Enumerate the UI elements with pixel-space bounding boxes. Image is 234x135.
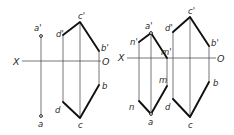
right-label-c: c <box>188 120 193 130</box>
right-small-top-edge <box>139 86 167 114</box>
right-axis-o-label: O <box>217 53 225 64</box>
right-figure: X O a' n' m' m n a d' c' b' d c b <box>117 6 225 130</box>
right-label-m: m <box>159 75 167 85</box>
left-label-a-prime: a' <box>34 23 42 33</box>
left-label-d: d <box>55 105 61 115</box>
right-label-b-prime: b' <box>211 38 219 48</box>
projection-diagram: X O a' a d' c' b' d c b X O <box>0 0 234 135</box>
right-point-a <box>150 113 153 116</box>
left-label-c: c <box>78 120 83 130</box>
right-label-c-prime: c' <box>188 6 195 16</box>
left-label-c-prime: c' <box>78 11 85 21</box>
right-label-n: n <box>129 102 134 112</box>
right-label-m-prime: m' <box>161 47 172 57</box>
right-axis-x-label: X <box>117 52 125 63</box>
right-label-a: a <box>148 117 153 127</box>
right-label-b: b <box>213 78 218 88</box>
left-label-d-prime: d' <box>56 29 64 39</box>
right-label-a-prime: a' <box>145 21 153 31</box>
right-label-d: d <box>165 102 171 112</box>
left-axis-x-label: X <box>12 56 20 67</box>
left-figure: X O a' a d' c' b' d c b <box>12 11 110 130</box>
left-label-b: b <box>102 81 107 91</box>
right-label-d-prime: d' <box>165 23 173 33</box>
right-point-a-prime <box>150 32 153 35</box>
left-top-view-edge <box>63 85 99 118</box>
right-label-n-prime: n' <box>130 37 138 47</box>
left-label-a: a <box>38 119 43 129</box>
left-label-b-prime: b' <box>101 43 109 53</box>
right-large-top-edge <box>173 82 209 117</box>
left-point-a-prime <box>40 35 43 38</box>
left-axis-o-label: O <box>102 56 110 67</box>
right-large-front-edge <box>173 17 209 46</box>
left-point-a <box>40 115 43 118</box>
left-front-view-edge <box>63 22 99 51</box>
